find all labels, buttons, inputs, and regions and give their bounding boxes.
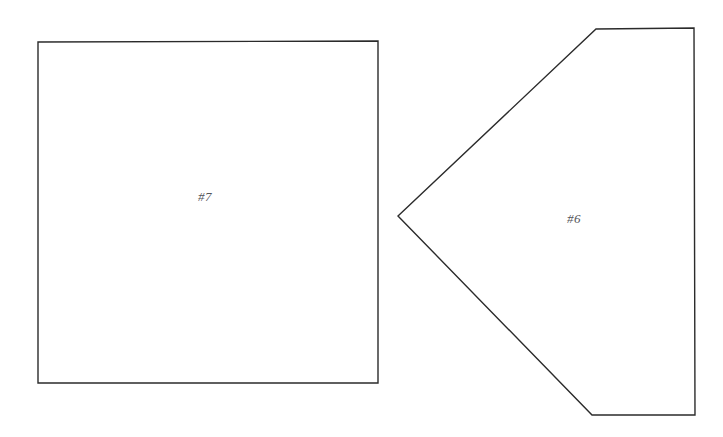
diagram-canvas: #7 #6 [0, 0, 723, 437]
shape-polygon-7[interactable] [38, 41, 378, 383]
shape-label-7: #7 [198, 189, 212, 205]
shapes-svg [0, 0, 723, 437]
shape-polygon-6[interactable] [398, 28, 695, 415]
shape-label-6: #6 [567, 211, 581, 227]
